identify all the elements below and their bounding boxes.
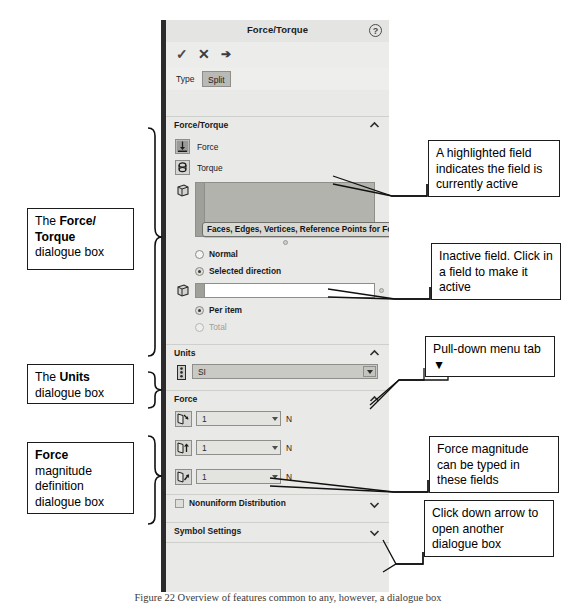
inactive-field-note: Inactive field. Click in a field to make…: [431, 243, 561, 300]
figure-caption: Figure 22 Overview of features common to…: [0, 592, 576, 603]
highlighted-field-note: A highlighted field indicates the field …: [428, 140, 560, 197]
force-magnitude-dialogue-label: Forcemagnitudedefinitiondialogue box: [27, 442, 134, 514]
down-arrow-note: Click down arrow to open another dialogu…: [424, 500, 554, 557]
force-magnitude-note: Force magnitude can be typed in these fi…: [429, 436, 559, 493]
pulldown-menu-note: Pull-down menu tab ▼: [425, 336, 555, 377]
force-torque-dialogue-label: The Force/Torquedialogue box: [27, 208, 134, 270]
units-dialogue-label: The Unitsdialogue box: [27, 364, 134, 404]
